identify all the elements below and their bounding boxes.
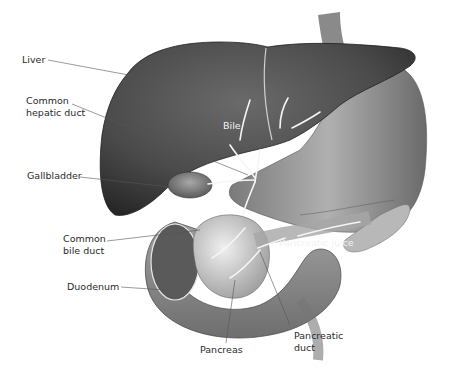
label-liver: Liver xyxy=(22,54,45,66)
label-bile: Bile xyxy=(223,120,241,132)
label-common-hepatic-duct: Common hepatic duct xyxy=(26,95,85,119)
label-gallbladder: Gallbladder xyxy=(27,170,82,182)
label-common-bile-duct: Common bile duct xyxy=(63,233,106,257)
gallbladder xyxy=(168,172,212,198)
anatomy-diagram: Liver Common hepatic duct Gallbladder Co… xyxy=(0,0,457,373)
label-pancreatic-juice: Pancreatic juice xyxy=(279,237,354,249)
anatomy-illustration xyxy=(0,0,457,373)
label-pancreas: Pancreas xyxy=(200,344,243,356)
label-pancreatic-duct: Pancreatic duct xyxy=(294,330,343,354)
label-duodenum: Duodenum xyxy=(67,281,119,293)
pancreas xyxy=(193,215,370,298)
